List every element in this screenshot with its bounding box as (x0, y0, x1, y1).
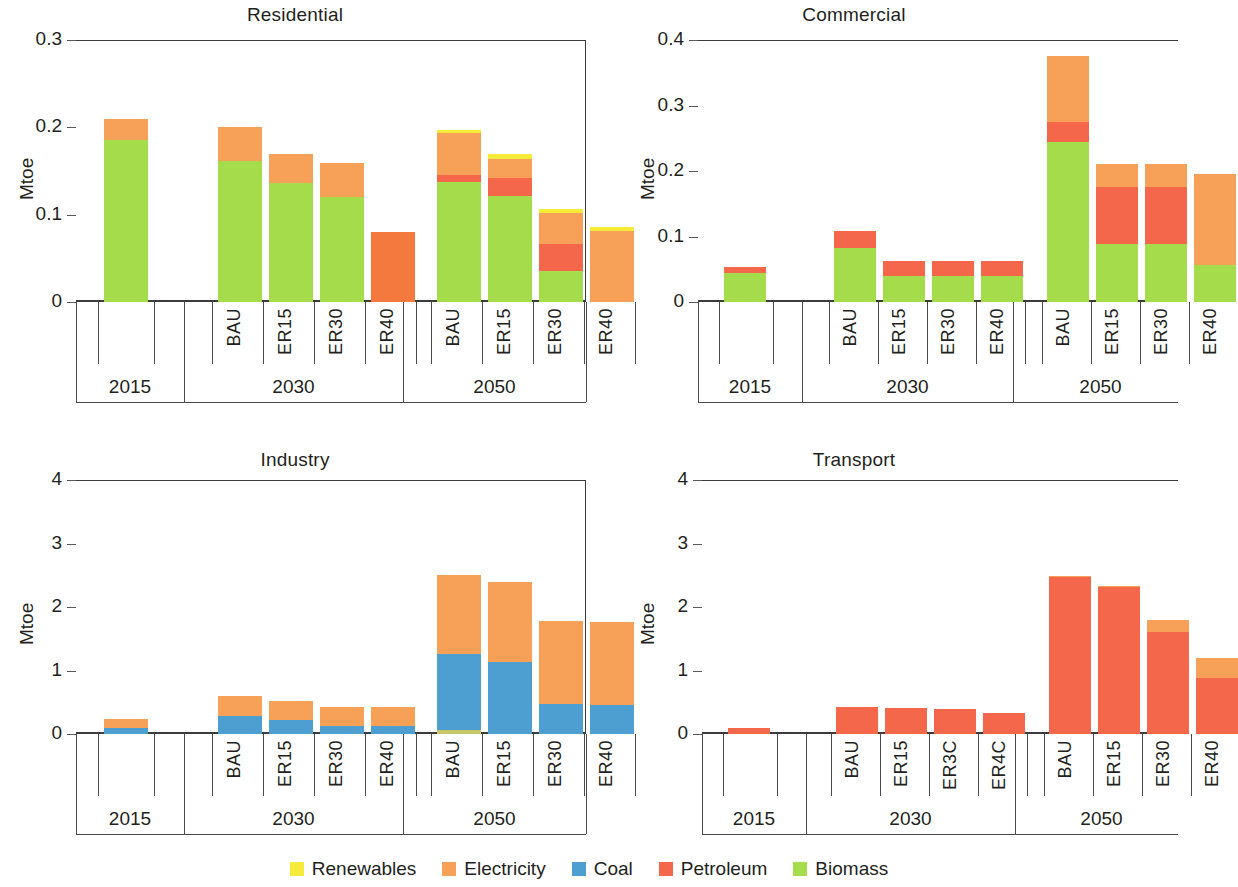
segment-petroleum (932, 261, 974, 276)
segment-electricity (539, 621, 583, 704)
y-tick (689, 40, 698, 41)
bar-2050-er40 (1196, 658, 1238, 734)
segment-biomass (218, 161, 262, 303)
year-label-2050: 2050 (1013, 376, 1188, 398)
axis-divider (976, 302, 977, 364)
y-tick-label: 0 (51, 290, 62, 312)
segment-electricity (371, 232, 415, 302)
x-axis-commercial: BAU ER15 ER30 ER40 BAU ER15 ER30 ER40 20… (698, 302, 1178, 402)
segment-electricity (218, 696, 262, 716)
panel-title-industry: Industry (0, 449, 590, 471)
axis-divider (212, 734, 213, 796)
axis-divider (314, 734, 315, 796)
y-tick-label: 2 (51, 595, 62, 617)
scenario-label-2050-er30: ER30 (545, 740, 566, 787)
segment-petroleum (836, 707, 878, 734)
bar-2050-er15 (1098, 586, 1140, 734)
segment-petroleum (885, 708, 927, 734)
bar-2030-bau (218, 127, 262, 302)
segment-petroleum (883, 261, 925, 276)
axis-divider (831, 734, 832, 796)
segment-electricity (104, 119, 148, 140)
bar-2050-er15 (488, 154, 532, 302)
legend-item-coal: Coal (572, 858, 633, 880)
segment-biomass (883, 276, 925, 302)
y-tick (67, 544, 76, 545)
scenario-label-2030-er4c: ER4C (989, 740, 1010, 790)
y-tick-label: 0.2 (36, 115, 62, 137)
segment-biomass (932, 276, 974, 302)
year-label-2050: 2050 (403, 808, 586, 830)
segment-electricity (1196, 658, 1238, 678)
panel-commercial: Commercial Mtoe 0.4 0.3 0.2 0.1 0 (590, 0, 1178, 420)
axis-divider (978, 734, 979, 796)
axis-divider (878, 302, 879, 364)
axis-divider (1042, 302, 1043, 364)
bar-2050-er30 (539, 209, 583, 302)
segment-electricity (269, 701, 313, 720)
panel-transport: Transport Mtoe 4 3 2 1 0 (590, 445, 1178, 850)
axis-divider (482, 302, 483, 364)
x-axis-transport: BAU ER15 ER3C ER4C BAU ER15 ER30 ER40 20… (702, 734, 1178, 834)
scenario-label-2030-er15: ER15 (889, 308, 910, 355)
scenario-label-2050-bau: BAU (443, 308, 464, 347)
y-tick-label: 0 (51, 722, 62, 744)
axis-divider (773, 302, 774, 364)
bar-2030-bau (834, 231, 876, 302)
segment-biomass (834, 248, 876, 302)
axis-top (76, 480, 586, 481)
scenario-label-2050-bau: BAU (1053, 308, 1074, 347)
axis-divider (719, 302, 720, 364)
bar-2050-er15 (488, 582, 532, 734)
bar-2030-er15 (885, 708, 927, 734)
segment-petroleum (981, 261, 1023, 275)
axis-divider (154, 734, 155, 796)
segment-petroleum (724, 267, 766, 274)
axis-divider (829, 302, 830, 364)
x-axis-industry: BAU ER15 ER30 ER40 BAU ER15 ER30 ER40 20… (76, 734, 586, 834)
segment-biomass (320, 197, 364, 302)
bar-2050-bau (437, 130, 481, 302)
panel-residential: Residential Mtoe 0.3 0.2 0.1 0 (0, 0, 590, 420)
segment-petroleum (1049, 577, 1091, 734)
segment-electricity (488, 159, 532, 178)
scenario-label-2050-er15: ER15 (1102, 308, 1123, 355)
segment-petroleum (834, 231, 876, 248)
y-tick-label: 0.1 (36, 203, 62, 225)
y-tick (689, 171, 698, 172)
segment-electricity (1047, 56, 1089, 122)
axis-bottom-rule (702, 834, 1178, 835)
scenario-label-2050-er40: ER40 (1202, 740, 1223, 787)
legend-swatch-electricity-icon (442, 862, 456, 876)
axis-divider (723, 734, 724, 796)
bar-2015 (104, 119, 148, 302)
segment-electricity (488, 582, 532, 662)
axis-divider (1191, 734, 1192, 796)
y-tick (67, 671, 76, 672)
segment-biomass (269, 183, 313, 302)
y-tick-label: 4 (51, 468, 62, 490)
y-tick-label: 2 (677, 595, 688, 617)
legend-label-coal: Coal (594, 858, 633, 880)
bar-2030-er40 (371, 707, 415, 734)
bar-2050-bau (1049, 576, 1091, 734)
axis-divider (365, 734, 366, 796)
axis-divider (1142, 734, 1143, 796)
legend-label-biomass: Biomass (815, 858, 888, 880)
axis-divider (1093, 734, 1094, 796)
segment-petroleum (437, 175, 481, 182)
y-tick-label: 1 (51, 659, 62, 681)
scenario-label-2030-bau: BAU (842, 740, 863, 779)
axis-divider (1027, 734, 1028, 796)
segment-electricity (371, 707, 415, 726)
segment-electricity (320, 163, 364, 197)
y-tick (67, 127, 76, 128)
y-tick (689, 106, 698, 107)
y-axis-label-residential: Mtoe (16, 158, 38, 200)
segment-coal (437, 654, 481, 730)
panel-title-commercial: Commercial (560, 4, 1148, 26)
y-tick (693, 734, 702, 735)
axis-divider (777, 734, 778, 796)
y-tick-label: 0.4 (658, 28, 684, 50)
